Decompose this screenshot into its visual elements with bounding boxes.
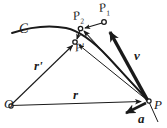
point-label-p1-subscript: 1 bbox=[106, 9, 111, 19]
curve-label-c: C bbox=[18, 21, 29, 36]
vector-diagram-figure: C P2 P1 P' r' r O P v a bbox=[0, 0, 167, 128]
vector-label-r: r bbox=[73, 88, 78, 101]
node-marker-P bbox=[147, 99, 151, 103]
origin-label-o: O bbox=[4, 97, 13, 110]
node-marker-P1 bbox=[102, 20, 107, 25]
point-label-p2: P2 bbox=[72, 8, 85, 25]
point-label-p: P bbox=[154, 98, 162, 111]
point-label-p1: P1 bbox=[98, 0, 111, 17]
vector-label-r-prime: r' bbox=[34, 59, 43, 72]
point-label-p2-subscript: 2 bbox=[80, 17, 85, 27]
position-vector-r-prime bbox=[11, 46, 73, 106]
position-vector-r bbox=[11, 102, 141, 106]
vector-label-v: v bbox=[134, 49, 140, 62]
connector-P1-to-P2 bbox=[85, 23, 102, 28]
vector-label-a: a bbox=[138, 112, 145, 125]
point-label-p-prime: P' bbox=[74, 41, 85, 53]
node-marker-P2 bbox=[78, 26, 82, 30]
